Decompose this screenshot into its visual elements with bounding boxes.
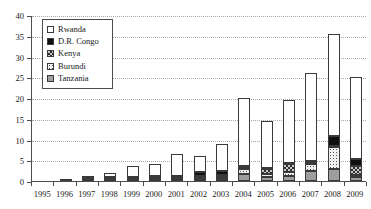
x-tick-label-2008: 2008 <box>321 189 343 199</box>
x-tick-mark-3 <box>98 182 99 186</box>
x-tick-mark-4 <box>120 182 121 186</box>
bar-segment-2009-kenya <box>350 166 362 175</box>
bar-segment-2002-tanzania <box>194 179 206 181</box>
legend-swatch-icon-drcongo <box>47 38 54 45</box>
bar-segment-2005-tanzania <box>261 177 273 181</box>
x-tick-label-2009: 2009 <box>344 189 366 199</box>
bar-segment-2007-burundi <box>305 164 317 171</box>
y-tick-label-30: 30 <box>0 53 24 63</box>
x-tick-label-2007: 2007 <box>299 189 321 199</box>
bar-segment-1997-tanzania <box>82 179 94 181</box>
gridline-40 <box>32 16 366 17</box>
bar-2002 <box>194 156 206 181</box>
x-tick-label-2006: 2006 <box>277 189 299 199</box>
bar-2001 <box>171 154 183 181</box>
x-tick-mark-12 <box>299 182 300 186</box>
x-tick-label-2003: 2003 <box>210 189 232 199</box>
legend-item-rwanda: Rwanda <box>47 23 108 35</box>
x-tick-mark-5 <box>143 182 144 186</box>
bar-1999 <box>127 166 139 181</box>
stacked-bar-chart: 0510152025303540 19951996199719981999200… <box>0 0 371 209</box>
bar-1998 <box>104 173 116 181</box>
bar-segment-2000-rwanda <box>149 164 161 176</box>
bar-2004 <box>238 98 250 181</box>
x-tick-mark-11 <box>277 182 278 186</box>
y-tick-label-10: 10 <box>0 136 24 146</box>
bar-segment-2008-burundi <box>328 147 340 169</box>
bar-segment-2006-tanzania <box>283 176 295 181</box>
bar-segment-2001-rwanda <box>171 154 183 176</box>
legend-item-label: Rwanda <box>58 25 86 34</box>
bar-segment-2005-burundi <box>261 174 273 176</box>
bar-segment-2003-rwanda <box>216 144 228 171</box>
x-tick-mark-2 <box>76 182 77 186</box>
y-tick-label-15: 15 <box>0 115 24 125</box>
x-tick-label-2000: 2000 <box>143 189 165 199</box>
x-tick-label-2001: 2001 <box>165 189 187 199</box>
bar-segment-2002-drcongo <box>194 172 206 176</box>
bar-segment-2006-kenya <box>283 164 295 171</box>
bar-segment-2004-burundi <box>238 169 250 174</box>
x-tick-mark-1 <box>53 182 54 186</box>
legend-item-label: Tanzania <box>58 74 89 83</box>
bar-segment-2005-rwanda <box>261 121 273 168</box>
legend-item-label: Burundi <box>58 62 86 71</box>
bar-2009 <box>350 77 362 181</box>
bar-1996 <box>60 180 72 181</box>
x-tick-label-2002: 2002 <box>187 189 209 199</box>
legend-swatch-icon-rwanda <box>47 26 54 33</box>
x-tick-label-1998: 1998 <box>98 189 120 199</box>
y-tick-label-25: 25 <box>0 73 24 83</box>
bar-segment-2003-tanzania <box>216 179 228 181</box>
x-tick-mark-13 <box>321 182 322 186</box>
bar-segment-2004-rwanda <box>238 98 250 166</box>
x-tick-mark-9 <box>232 182 233 186</box>
bar-segment-1997-rwanda <box>82 176 94 178</box>
bar-segment-2009-drcongo <box>350 159 362 166</box>
legend-swatch-icon-tanzania <box>47 75 54 82</box>
y-tick-label-20: 20 <box>0 94 24 104</box>
x-tick-mark-15 <box>366 182 367 186</box>
bar-segment-2008-rwanda <box>328 34 340 136</box>
bar-segment-2008-tanzania <box>328 169 340 181</box>
legend-item-burundi: Burundi <box>47 60 108 72</box>
bar-2003 <box>216 144 228 181</box>
bar-segment-2004-drcongo <box>238 166 250 168</box>
legend-item-tanzania: Tanzania <box>47 73 108 85</box>
x-tick-mark-10 <box>254 182 255 186</box>
bar-2006 <box>283 100 295 181</box>
legend-item-label: Kenya <box>58 49 80 58</box>
y-tick-label-5: 5 <box>0 156 24 166</box>
bar-segment-2006-burundi <box>283 172 295 176</box>
x-tick-label-1996: 1996 <box>53 189 75 199</box>
x-tick-label-2004: 2004 <box>232 189 254 199</box>
bar-2005 <box>261 121 273 181</box>
x-tick-label-2005: 2005 <box>254 189 276 199</box>
y-tick-label-40: 40 <box>0 11 24 21</box>
bar-segment-1998-rwanda <box>104 173 116 177</box>
x-tick-mark-14 <box>344 182 345 186</box>
bar-segment-1999-rwanda <box>127 166 139 176</box>
bar-segment-2003-drcongo <box>216 171 228 176</box>
x-tick-label-1997: 1997 <box>76 189 98 199</box>
bar-segment-2007-drcongo <box>305 161 317 163</box>
x-tick-label-1999: 1999 <box>120 189 142 199</box>
legend-swatch-icon-kenya <box>47 50 54 57</box>
bar-segment-2007-rwanda <box>305 73 317 161</box>
legend-item-kenya: Kenya <box>47 48 108 60</box>
bar-2007 <box>305 73 317 181</box>
x-tick-mark-0 <box>31 182 32 186</box>
legend: RwandaD.R. CongoKenyaBurundiTanzania <box>42 19 113 89</box>
bar-segment-2004-tanzania <box>238 174 250 181</box>
bar-segment-2005-kenya <box>261 169 273 174</box>
x-tick-mark-6 <box>165 182 166 186</box>
bar-segment-2009-rwanda <box>350 77 362 159</box>
bar-2008 <box>328 34 340 181</box>
bar-1997 <box>82 177 94 181</box>
bar-segment-2006-rwanda <box>283 100 295 163</box>
bar-segment-1996-tanzania <box>60 179 72 181</box>
bar-segment-2002-rwanda <box>194 156 206 172</box>
legend-item-label: D.R. Congo <box>58 37 99 46</box>
legend-item-drcongo: D.R. Congo <box>47 35 108 47</box>
bar-2000 <box>149 164 161 181</box>
